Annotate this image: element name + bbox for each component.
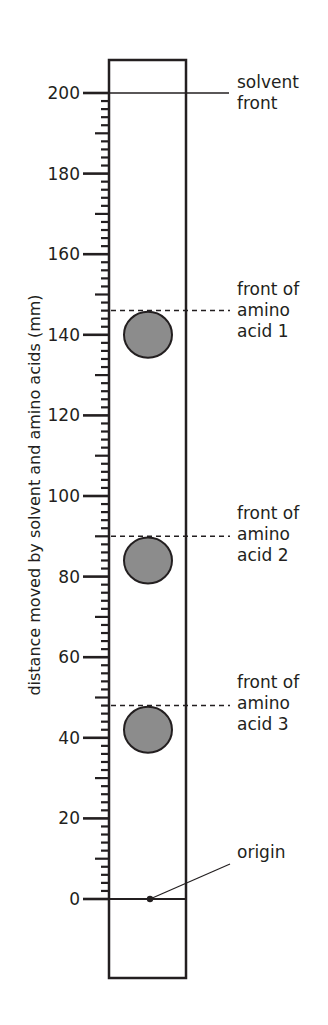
amino-acid-3-label: front of amino acid 3 [237,672,299,735]
tick-label-160: 160 [30,244,80,264]
origin-label: origin [237,842,285,863]
amino-acid-2-spot [124,537,172,583]
amino-acid-3-spot [124,707,172,753]
y-axis-label: distance moved by solvent and amino acid… [25,294,44,695]
solvent-front-label: solvent front [237,72,299,114]
amino-acid-1-label: front of amino acid 1 [237,279,299,342]
tick-label-20: 20 [30,808,80,828]
amino-acid-2-label: front of amino acid 2 [237,503,299,566]
tick-label-0: 0 [30,889,80,909]
tick-label-180: 180 [30,164,80,184]
chromatography-paper [109,60,186,978]
tick-label-40: 40 [30,728,80,748]
tick-label-200: 200 [30,83,80,103]
amino-acid-1-spot [124,312,172,358]
ruler-ticks [83,93,109,899]
